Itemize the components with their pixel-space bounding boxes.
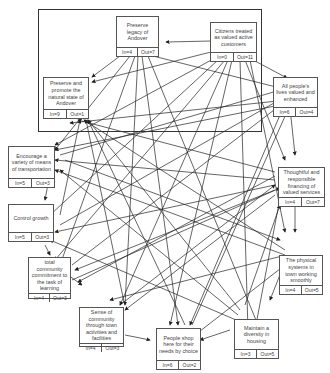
node-label: Control growth xyxy=(9,205,53,232)
node-financing[interactable]: Thoughtful and responsible financing of … xyxy=(278,167,325,207)
node-transportation[interactable]: Encourage a variety of means of transpor… xyxy=(8,146,55,188)
node-lives-valued[interactable]: All people's lives valued and enhanced I… xyxy=(273,77,318,117)
node-label: total community commitment to the task o… xyxy=(29,258,70,293)
node-natural-state[interactable]: Preserve and promote the natural state o… xyxy=(43,77,89,119)
out-count: Out=3 xyxy=(101,344,123,352)
node-people-shop[interactable]: People shop here for their needs by choi… xyxy=(156,328,201,370)
in-count: In=3 xyxy=(235,350,256,358)
node-label: Thoughtful and responsible financing of … xyxy=(279,168,324,197)
out-count: Out=4 xyxy=(295,108,317,116)
node-label: Preserve and promote the natural state o… xyxy=(44,78,88,109)
in-count: In=0 xyxy=(211,53,233,61)
node-sense-of-community[interactable]: Sense of community through town activiti… xyxy=(79,307,124,347)
in-count: In=4 xyxy=(117,48,137,56)
node-label: Encourage a variety of means of transpor… xyxy=(9,147,54,178)
out-count: Out=5 xyxy=(256,350,278,358)
node-label: Preserve legacy of Andover xyxy=(117,17,158,47)
out-count: Out=11 xyxy=(233,53,256,61)
out-count: Out=3 xyxy=(31,233,54,241)
in-count: In=4 xyxy=(279,198,301,206)
out-count: Out=3 xyxy=(31,179,54,187)
in-count: In=4 xyxy=(80,344,101,352)
out-count: Out=1 xyxy=(66,110,89,118)
node-label: All people's lives valued and enhanced xyxy=(274,78,317,107)
node-label: Sense of community through town activiti… xyxy=(80,308,123,343)
node-label: The physical systems in town working smo… xyxy=(280,256,322,285)
out-count: Out=2 xyxy=(178,361,200,369)
node-label: Maintain a diversity in housing xyxy=(235,320,278,349)
in-count: In=4 xyxy=(280,286,301,294)
node-learning[interactable]: total community commitment to the task o… xyxy=(28,257,71,299)
node-preserve-legacy[interactable]: Preserve legacy of Andover In=4Out=7 xyxy=(116,16,159,57)
in-count: In=9 xyxy=(44,110,66,118)
in-count: In=5 xyxy=(9,233,31,241)
in-count: In=6 xyxy=(274,108,295,116)
node-citizens-valued[interactable]: Citizens treated as valued active custom… xyxy=(210,22,257,62)
out-count: Out=5 xyxy=(301,286,323,294)
out-count: Out=7 xyxy=(301,198,324,206)
in-count: In=4 xyxy=(29,294,49,302)
out-count: Out=3 xyxy=(49,294,70,302)
in-count: In=5 xyxy=(9,179,31,187)
node-physical-systems[interactable]: The physical systems in town working smo… xyxy=(279,255,323,295)
node-housing-diversity[interactable]: Maintain a diversity in housing In=3Out=… xyxy=(234,319,279,359)
node-label: People shop here for their needs by choi… xyxy=(157,329,200,360)
out-count: Out=7 xyxy=(137,48,158,56)
node-control-growth[interactable]: Control growth In=5Out=3 xyxy=(8,204,54,242)
in-count: In=6 xyxy=(157,361,178,369)
node-label: Citizens treated as valued active custom… xyxy=(211,23,256,52)
